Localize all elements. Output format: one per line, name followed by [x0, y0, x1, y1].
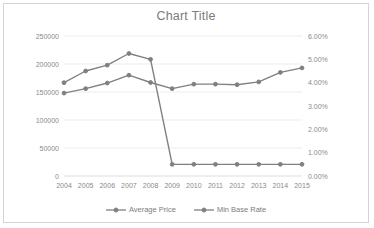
chart-container[interactable]: Chart Title 0500001000001500002000002500…: [3, 3, 369, 223]
left-axis-tick-label: 150000: [36, 89, 59, 96]
x-axis-tick-label: 2006: [99, 182, 115, 189]
left-axis-tick-label: 0: [55, 173, 59, 180]
data-point-marker[interactable]: [214, 82, 218, 86]
right-axis-tick-label: 5.00%: [308, 56, 328, 63]
x-axis-tick-label: 2012: [229, 182, 245, 189]
right-axis-tick-label: 3.00%: [308, 103, 328, 110]
data-point-marker[interactable]: [278, 162, 282, 166]
data-point-marker[interactable]: [127, 52, 131, 56]
x-axis-tick-label: 2011: [208, 182, 223, 189]
data-point-marker[interactable]: [257, 80, 261, 84]
legend-item-average-price[interactable]: Average Price: [106, 205, 176, 214]
data-series[interactable]: [62, 52, 304, 167]
data-point-marker[interactable]: [235, 162, 239, 166]
x-axis-tick-label: 2009: [164, 182, 180, 189]
right-axis-tick-label: 1.00%: [308, 149, 328, 156]
legend-item-min-base-rate[interactable]: Min Base Rate: [194, 205, 266, 214]
series-min-base-rate[interactable]: [62, 52, 304, 167]
data-point-marker[interactable]: [278, 71, 282, 75]
x-axis-tick-label: 2005: [78, 182, 94, 189]
data-point-marker[interactable]: [192, 162, 196, 166]
x-axis-tick-label: 2007: [121, 182, 137, 189]
right-axis-labels: 0.00%1.00%2.00%3.00%4.00%5.00%6.00%: [308, 33, 328, 180]
gridlines: [64, 36, 302, 176]
data-point-marker[interactable]: [235, 83, 239, 87]
chart-legend: Average Price Min Base Rate: [4, 205, 368, 214]
left-axis-tick-label: 200000: [36, 61, 59, 68]
right-axis-tick-label: 6.00%: [308, 33, 328, 40]
legend-label: Average Price: [129, 205, 176, 214]
x-axis-tick-label: 2004: [56, 182, 72, 189]
right-axis-tick-label: 0.00%: [308, 173, 328, 180]
data-point-marker[interactable]: [127, 73, 131, 77]
series-average-price[interactable]: [62, 66, 304, 95]
data-point-marker[interactable]: [62, 81, 66, 85]
left-axis-tick-label: 250000: [36, 33, 59, 40]
x-axis-tick-label: 2010: [186, 182, 202, 189]
data-point-marker[interactable]: [84, 69, 88, 73]
data-point-marker[interactable]: [300, 66, 304, 70]
left-axis-tick-label: 50000: [40, 145, 60, 152]
data-point-marker[interactable]: [300, 162, 304, 166]
data-point-marker[interactable]: [149, 57, 153, 61]
data-point-marker[interactable]: [84, 87, 88, 91]
legend-marker-icon: [106, 206, 126, 214]
left-axis-labels: 050000100000150000200000250000: [36, 33, 59, 180]
right-axis-tick-label: 4.00%: [308, 79, 328, 86]
x-axis-tick-label: 2008: [143, 182, 159, 189]
left-axis-tick-label: 100000: [36, 117, 59, 124]
data-point-marker[interactable]: [214, 162, 218, 166]
series-line[interactable]: [64, 68, 302, 93]
data-point-marker[interactable]: [257, 162, 261, 166]
legend-label: Min Base Rate: [217, 205, 266, 214]
x-axis-tick-label: 2013: [251, 182, 267, 189]
data-point-marker[interactable]: [192, 82, 196, 86]
data-point-marker[interactable]: [149, 81, 153, 85]
x-axis-tick-label: 2015: [294, 182, 310, 189]
data-point-marker[interactable]: [62, 91, 66, 95]
data-point-marker[interactable]: [105, 63, 109, 67]
data-point-marker[interactable]: [105, 81, 109, 85]
chart-plot-area[interactable]: 050000100000150000200000250000 0.00%1.00…: [4, 4, 370, 224]
right-axis-tick-label: 2.00%: [308, 126, 328, 133]
x-axis-labels: 2004200520062007200820092010201120122013…: [56, 182, 310, 189]
x-axis-tick-label: 2014: [273, 182, 289, 189]
data-point-marker[interactable]: [170, 87, 174, 91]
data-point-marker[interactable]: [170, 162, 174, 166]
legend-marker-icon: [194, 206, 214, 214]
